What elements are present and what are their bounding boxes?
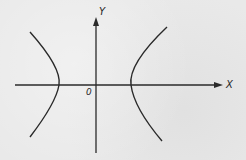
x-axis-label: X [226,80,233,90]
origin-label: 0 [86,88,92,97]
x-axis-arrow-icon [214,82,223,88]
hyperbola-diagram: Y X 0 [0,0,246,160]
right-hyperbola-branch [131,27,167,141]
diagram-svg [0,0,246,160]
y-axis-label: Y [99,7,105,17]
y-axis-arrow-icon [93,17,99,26]
